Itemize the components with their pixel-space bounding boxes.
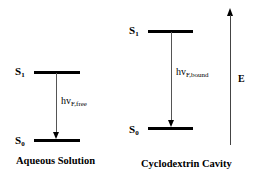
aqueous-emission-line: [56, 73, 57, 133]
cyclodextrin-s0-level: [148, 127, 193, 130]
aqueous-caption: Aqueous Solution: [16, 155, 95, 166]
arrow-down-icon: [168, 120, 174, 127]
cyclodextrin-emission-line: [171, 32, 172, 121]
cyclodextrin-transition-label: hvF,bound: [176, 67, 209, 78]
aqueous-transition-label: hvF,free: [61, 96, 87, 107]
cyclodextrin-caption: Cyclodextrin Cavity: [141, 158, 232, 169]
energy-axis-label: E: [238, 73, 245, 84]
aqueous-s1-level: [34, 71, 80, 74]
cyclodextrin-s0-label: S0: [129, 124, 139, 137]
aqueous-s0-label: S0: [15, 135, 25, 148]
arrow-down-icon: [53, 132, 59, 139]
cyclodextrin-s1-label: S1: [129, 25, 139, 38]
energy-axis-line: [230, 15, 231, 145]
aqueous-s1-label: S1: [15, 66, 25, 79]
aqueous-s0-level: [34, 139, 80, 142]
